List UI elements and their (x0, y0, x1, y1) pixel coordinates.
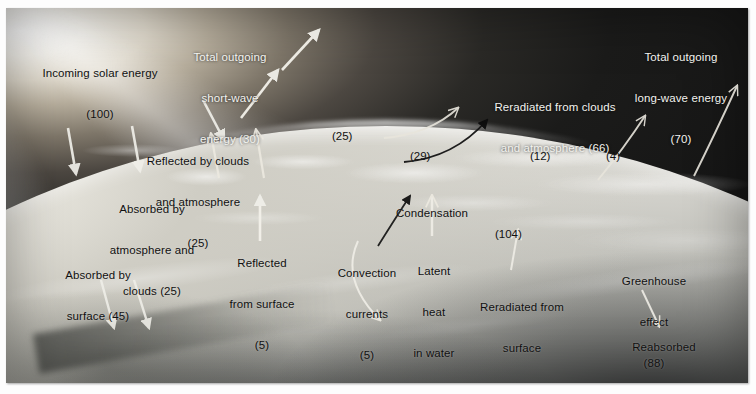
label-absorbed-by-surface: Absorbed by surface (45) (42, 242, 154, 351)
value-12: (12) (530, 150, 550, 162)
energy-budget-figure: Incoming solar energy (100) Total outgoi… (0, 0, 756, 394)
value-104: (104) (495, 228, 522, 240)
value-29: (29) (410, 150, 430, 162)
label-reradiated-from-clouds-and-atmosphere: Reradiated from clouds and atmosphere (6… (464, 74, 646, 183)
label-reflected-from-surface: Reflected from surface (5) (214, 230, 310, 379)
satellite-photo-plate: Incoming solar energy (100) Total outgoi… (6, 8, 748, 383)
label-latent-heat-in-water: Latent heat in water (24) (404, 238, 464, 383)
value-4: (4) (606, 150, 620, 162)
label-reabsorbed: Reabsorbed (614, 314, 714, 382)
label-convection-currents: Convection currents (5) (328, 240, 406, 383)
label-reradiated-from-surface: Reradiated from surface (466, 274, 578, 383)
value-25-short-wave: (25) (332, 130, 352, 142)
